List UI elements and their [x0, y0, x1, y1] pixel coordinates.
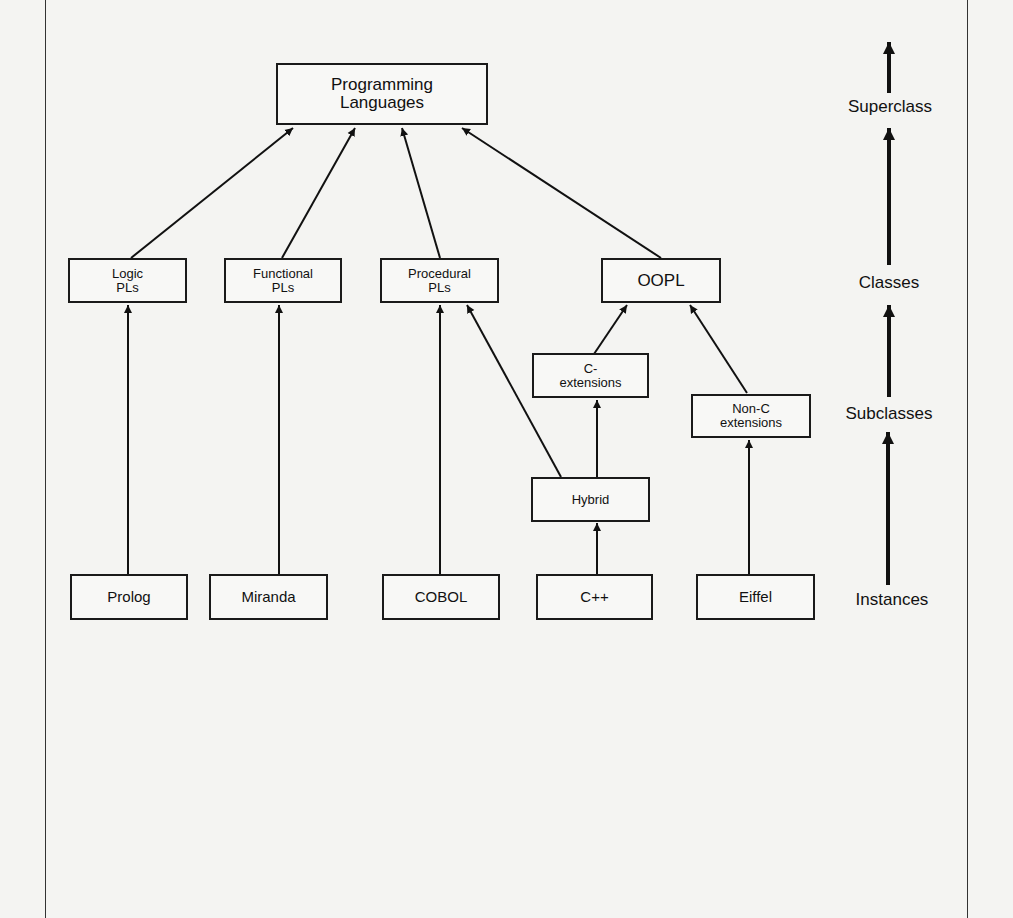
node-label: Procedural PLs	[408, 267, 471, 294]
node-functional-pls: Functional PLs	[224, 258, 342, 303]
node-hybrid: Hybrid	[531, 477, 650, 522]
edge-noncext-to-oopl	[690, 305, 747, 393]
node-label: OOPL	[637, 272, 684, 290]
node-procedural-pls: Procedural PLs	[380, 258, 499, 303]
node-label: C++	[580, 589, 608, 605]
legend-superclass: Superclass	[830, 97, 950, 117]
legend-classes: Classes	[829, 273, 949, 293]
node-label: Prolog	[107, 589, 150, 605]
node-label: COBOL	[415, 589, 468, 605]
node-label: Eiffel	[739, 589, 772, 605]
node-label: Hybrid	[572, 493, 610, 507]
legend-instances: Instances	[832, 590, 952, 610]
node-label: Miranda	[241, 589, 295, 605]
node-label: Logic PLs	[112, 267, 143, 294]
edge-logic-to-root	[131, 128, 293, 258]
edge-oopl-to-root	[462, 128, 661, 258]
legend-subclasses: Subclasses	[829, 404, 949, 424]
node-c-extensions: C- extensions	[532, 353, 649, 398]
node-label: C- extensions	[559, 362, 621, 389]
node-logic-pls: Logic PLs	[68, 258, 187, 303]
node-prolog: Prolog	[70, 574, 188, 620]
node-cpp: C++	[536, 574, 653, 620]
hierarchy-connectors	[0, 0, 1013, 918]
node-oopl: OOPL	[601, 258, 721, 303]
edge-cext-to-oopl	[594, 305, 627, 354]
edge-procedural-to-root	[402, 128, 440, 258]
node-programming-languages: Programming Languages	[276, 63, 488, 125]
node-non-c-extensions: Non-C extensions	[691, 394, 811, 438]
node-label: Functional PLs	[253, 267, 313, 294]
node-cobol: COBOL	[382, 574, 500, 620]
edge-functional-to-root	[282, 128, 355, 258]
node-eiffel: Eiffel	[696, 574, 815, 620]
node-miranda: Miranda	[209, 574, 328, 620]
node-label: Non-C extensions	[720, 402, 782, 429]
node-label: Programming Languages	[331, 76, 433, 112]
